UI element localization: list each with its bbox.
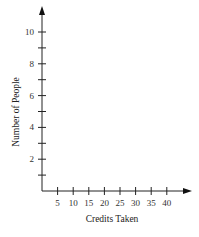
x-axis-arrow-icon <box>183 188 192 194</box>
y-tick-label: 10 <box>25 27 35 37</box>
y-tick-label: 4 <box>30 122 35 132</box>
x-tick-label: 20 <box>100 198 110 208</box>
x-tick-label: 30 <box>131 198 141 208</box>
y-tick-label: 6 <box>30 91 35 101</box>
x-tick-label: 5 <box>55 198 60 208</box>
y-axis-arrow-icon <box>39 6 45 15</box>
x-tick-label: 40 <box>162 198 172 208</box>
x-tick-label: 15 <box>84 198 94 208</box>
chart: 246810 510152025303540 Credits Taken Num… <box>0 0 199 237</box>
x-tick-label: 35 <box>147 198 157 208</box>
x-axis: 510152025303540 <box>42 187 192 208</box>
x-axis-title: Credits Taken <box>86 214 139 224</box>
x-tick-label: 10 <box>69 198 79 208</box>
x-tick-label: 25 <box>116 198 126 208</box>
y-axis-title: Number of People <box>11 77 21 147</box>
y-tick-label: 8 <box>30 59 35 69</box>
y-axis: 246810 <box>25 6 46 191</box>
y-tick-label: 2 <box>30 154 35 164</box>
